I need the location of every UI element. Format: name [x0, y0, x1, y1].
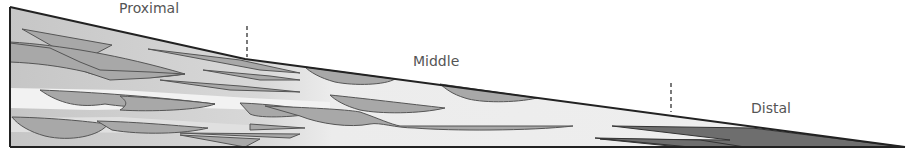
zone-label-proximal: Proximal — [119, 0, 179, 16]
fan-cross-section-diagram — [0, 0, 910, 159]
zone-label-distal: Distal — [751, 100, 791, 116]
zone-label-middle: Middle — [413, 53, 459, 69]
